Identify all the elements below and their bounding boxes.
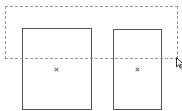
center-x-marker-icon (54, 67, 59, 72)
selection-marquee (5, 6, 178, 59)
drawing-canvas[interactable] (0, 0, 182, 111)
center-x-marker-icon (135, 67, 140, 72)
arrow-pointer-icon (176, 57, 182, 69)
